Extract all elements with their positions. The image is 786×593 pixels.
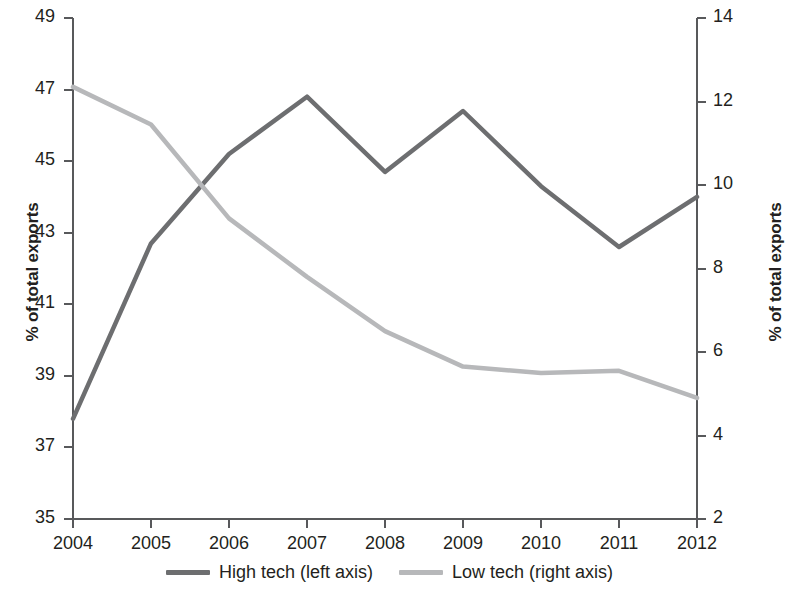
legend-item: High tech (left axis) — [166, 562, 373, 583]
series-line — [73, 87, 697, 398]
legend-swatch-icon — [399, 570, 443, 575]
legend-item: Low tech (right axis) — [399, 562, 613, 583]
series-lines — [73, 87, 697, 419]
chart-legend: High tech (left axis)Low tech (right axi… — [0, 562, 779, 583]
legend-label: High tech (left axis) — [219, 562, 373, 583]
legend-swatch-icon — [166, 570, 210, 575]
axis-lines — [64, 18, 706, 528]
legend-label: Low tech (right axis) — [452, 562, 613, 583]
